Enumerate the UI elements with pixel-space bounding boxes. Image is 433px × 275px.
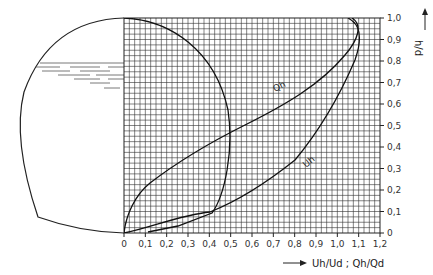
y-tick-label: 0,1 [387, 207, 401, 217]
x-tick-label: 0,5 [224, 239, 238, 249]
x-tick-label: 0,9 [309, 239, 324, 249]
y-tick-label: 0 [387, 228, 393, 238]
y-tick-label: 0,2 [387, 185, 401, 195]
x-tick-label: 1,2 [373, 239, 387, 249]
x-tick-label: 0,3 [181, 239, 195, 249]
x-tick-label: 1,0 [330, 239, 345, 249]
y-tick-label: 0,7 [387, 78, 401, 88]
x-tick-label: 0,1 [138, 239, 152, 249]
y-tick-label: 0,5 [387, 121, 401, 131]
y-tick-label: 0,3 [387, 164, 401, 174]
x-tick-label: 0,2 [160, 239, 174, 249]
x-tick-label: 0 [121, 239, 127, 249]
pipe-cross-section [20, 18, 124, 233]
water-surface-hatching [36, 63, 124, 88]
x-axis-label: Uh/Ud ; Qh/Qd [312, 258, 384, 269]
x-tick-label: 0,6 [245, 239, 260, 249]
y-axis-title: h/d [413, 8, 428, 56]
chart-grid [124, 18, 380, 233]
curve-label-uh: Uh [301, 154, 317, 170]
y-axis-label: h/d [413, 40, 424, 56]
x-tick-label: 0,7 [266, 239, 280, 249]
y-tick-label: 0,8 [387, 56, 402, 66]
y-tick-label: 0,9 [387, 35, 402, 45]
partial-filling-chart: Qh Uh 00,10,20,30,40,50,60,70,80,91,01,1… [0, 0, 433, 275]
y-tick-label: 1,0 [387, 13, 402, 23]
y-axis-ticks: 00,10,20,30,40,50,60,70,80,91,0 [380, 13, 402, 238]
x-tick-label: 1,1 [352, 239, 366, 249]
y-tick-label: 0,6 [387, 99, 402, 109]
x-tick-label: 0,8 [288, 239, 303, 249]
x-axis-title: Uh/Ud ; Qh/Qd [283, 258, 384, 269]
curve-label-qh: Qh [271, 79, 287, 94]
x-tick-label: 0,4 [202, 239, 217, 249]
y-tick-label: 0,4 [387, 142, 402, 152]
x-axis-ticks: 00,10,20,30,40,50,60,70,80,91,01,11,2 [121, 233, 387, 249]
